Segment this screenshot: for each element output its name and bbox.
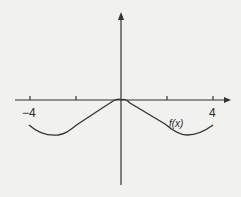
y-axis (118, 12, 124, 185)
x-max-label: 4 (209, 106, 216, 120)
x-min-label: −4 (22, 106, 36, 120)
function-graph (0, 0, 241, 197)
curve-label: f(x) (169, 118, 183, 129)
